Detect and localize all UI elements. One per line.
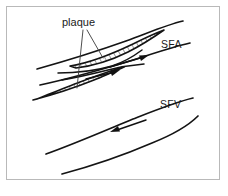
figure-root: SFA plaque SFV	[0, 0, 228, 196]
sfv-vessel: SFV	[46, 98, 198, 174]
plaque-label: plaque	[62, 16, 95, 28]
sfv-label: SFV	[160, 98, 181, 110]
sfa-vessel: SFA	[33, 21, 190, 100]
vessel-diagram: SFA plaque SFV	[0, 0, 228, 196]
plaque-leader-line-lower	[77, 30, 83, 88]
sfv-lower-wall	[62, 116, 198, 174]
plaque-region-upper	[70, 30, 164, 68]
sfa-label: SFA	[161, 38, 182, 50]
